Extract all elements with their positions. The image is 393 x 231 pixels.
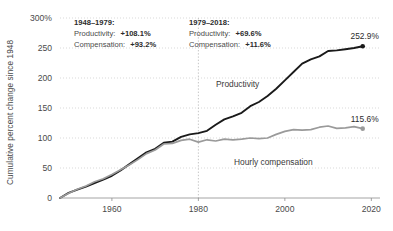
annotation-period-2-row-0-label: Productivity: bbox=[189, 29, 230, 38]
annotation-period-1-row-0-value: +108.1% bbox=[120, 29, 150, 38]
y-axis-ticks: 050100150200250300% bbox=[30, 13, 52, 203]
end-label-productivity: 252.9% bbox=[350, 31, 379, 41]
annotation-period-2-row-0: Productivity: +69.6% bbox=[189, 29, 262, 38]
endpoint-marker-hourly-compensation bbox=[360, 126, 365, 131]
annotation-period-1-row-1-label: Compensation: bbox=[74, 40, 125, 49]
annotation-period-1-row-1-value: +93.2% bbox=[130, 40, 156, 49]
annotation-period-1-heading: 1948–1979: bbox=[74, 18, 115, 27]
series-label-productivity: Productivity bbox=[216, 79, 260, 89]
y-tick-label: 0 bbox=[47, 193, 52, 203]
y-tick-label: 50 bbox=[42, 163, 52, 173]
endpoint-marker-productivity bbox=[360, 44, 365, 49]
y-axis-label: Cumulative percent change since 1948 bbox=[6, 40, 15, 185]
annotation-period-1: 1948–1979: Productivity: +108.1% Compens… bbox=[74, 18, 156, 49]
line-chart: 1960198020002020 050100150200250300% Cum… bbox=[0, 0, 393, 231]
series-layer bbox=[60, 44, 365, 198]
x-tick-label: 1980 bbox=[189, 204, 208, 214]
y-tick-label: 300% bbox=[30, 13, 52, 23]
x-tick-label: 2000 bbox=[275, 204, 294, 214]
series-line-hourly-compensation bbox=[60, 126, 363, 198]
annotation-period-2-row-1: Compensation: +11.6% bbox=[189, 40, 271, 49]
x-tick-label: 2020 bbox=[362, 204, 381, 214]
annotation-period-2-row-1-value: +11.6% bbox=[245, 40, 271, 49]
annotation-period-1-row-0-label: Productivity: bbox=[74, 29, 115, 38]
annotation-period-2-heading: 1979–2018: bbox=[189, 18, 230, 27]
x-tick-label: 1960 bbox=[102, 204, 121, 214]
series-label-hourly-compensation: Hourly compensation bbox=[234, 157, 313, 167]
annotation-period-2-row-0-value: +69.6% bbox=[235, 29, 261, 38]
annotation-period-1-row-1: Compensation: +93.2% bbox=[74, 40, 156, 49]
y-tick-label: 150 bbox=[38, 103, 53, 113]
x-axis-ticks: 1960198020002020 bbox=[102, 198, 381, 214]
annotation-period-2-row-1-label: Compensation: bbox=[189, 40, 240, 49]
series-line-productivity bbox=[60, 46, 363, 198]
y-tick-label: 250 bbox=[38, 43, 53, 53]
annotation-period-1-row-0: Productivity: +108.1% bbox=[74, 29, 151, 38]
y-tick-label: 100 bbox=[38, 133, 53, 143]
annotation-period-2: 1979–2018: Productivity: +69.6% Compensa… bbox=[189, 18, 271, 49]
y-tick-label: 200 bbox=[38, 73, 53, 83]
end-label-hourly-compensation: 115.6% bbox=[351, 114, 379, 124]
chart-container: 1960198020002020 050100150200250300% Cum… bbox=[0, 0, 393, 231]
